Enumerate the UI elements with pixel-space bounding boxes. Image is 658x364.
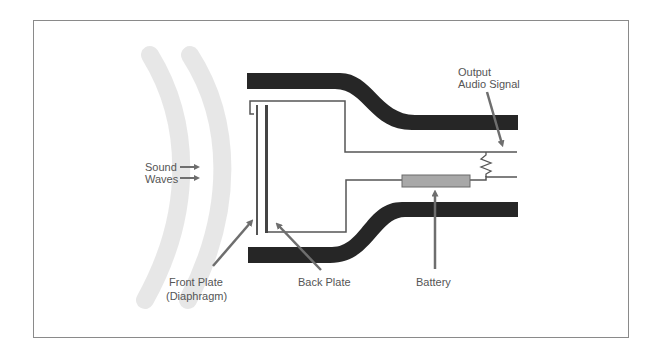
sound-waves-label-line2: Waves [145, 173, 178, 185]
back-plate-icon [265, 105, 268, 233]
front-plate-icon [256, 105, 258, 235]
front-plate-label-line1: Front Plate [169, 276, 223, 288]
output-label-line1: Output [458, 66, 491, 78]
battery-label: Battery [416, 276, 451, 288]
microphone-diagram [0, 0, 658, 364]
sound-waves-label-line1: Sound [145, 161, 177, 173]
output-label-line2: Audio Signal [458, 78, 520, 90]
front-plate-label-line2: (Diaphragm) [166, 290, 227, 302]
back-plate-label: Back Plate [298, 276, 351, 288]
battery-icon [402, 175, 470, 187]
diagram-frame [34, 21, 629, 338]
